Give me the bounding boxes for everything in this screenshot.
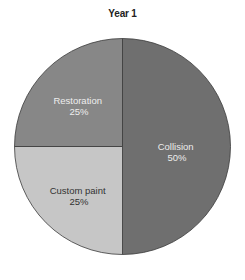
slice-restoration bbox=[15, 39, 123, 147]
pie-slices bbox=[15, 39, 231, 255]
pie-chart: Collision 50% Custom paint 25% Restorati… bbox=[0, 0, 245, 280]
